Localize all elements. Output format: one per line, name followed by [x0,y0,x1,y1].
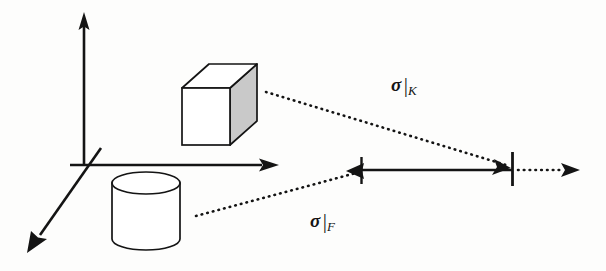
cube-projection-line [266,92,506,165]
left-arrowhead [346,163,364,179]
cube-shape [182,64,257,145]
depth-axis [27,148,101,253]
figure-container: σ|K σ|F [0,0,606,271]
cylinder-shape [112,172,180,250]
restriction-axis [346,152,580,186]
vertical-axis [79,12,90,166]
horizontal-axis [70,159,279,172]
terminal-arrowhead [561,163,580,177]
diagram-canvas [0,0,606,271]
cylinder-projection-line [196,173,356,216]
